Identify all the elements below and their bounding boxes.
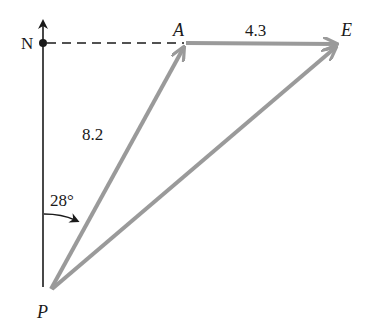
label-point-e: E bbox=[340, 20, 352, 40]
label-magnitude-ae: 4.3 bbox=[245, 21, 266, 40]
label-point-p: P bbox=[36, 302, 48, 322]
vector-pa bbox=[51, 47, 184, 289]
vector-pe bbox=[52, 47, 336, 289]
angle-arc-arrow bbox=[44, 214, 75, 220]
vector-diagram: N A E P 4.3 8.2 28° bbox=[0, 0, 368, 328]
label-north: N bbox=[21, 34, 33, 53]
label-point-a: A bbox=[172, 20, 185, 40]
label-angle: 28° bbox=[50, 191, 74, 210]
vector-ae bbox=[186, 43, 337, 44]
label-magnitude-pa: 8.2 bbox=[82, 125, 103, 144]
north-point-dot bbox=[39, 39, 47, 47]
